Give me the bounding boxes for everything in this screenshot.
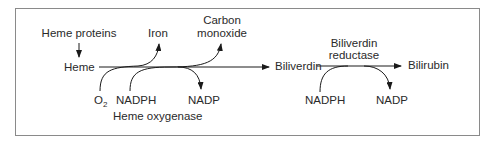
label-o2: O2 bbox=[94, 94, 107, 111]
label-nadph-2: NADPH bbox=[305, 94, 345, 107]
arrow-to-nadp-1 bbox=[178, 67, 201, 89]
arrow-nadph-2 bbox=[320, 66, 348, 92]
node-heme: Heme bbox=[64, 61, 95, 74]
o2-base: O bbox=[94, 94, 103, 106]
node-carbon-monoxide-line1: Carbon bbox=[203, 14, 241, 27]
label-nadp-2: NADP bbox=[376, 94, 408, 107]
node-bilirubin: Bilirubin bbox=[408, 59, 449, 72]
o2-subscript: 2 bbox=[103, 100, 107, 109]
label-heme-oxygenase: Heme oxygenase bbox=[113, 110, 203, 123]
node-carbon-monoxide-line2: monoxide bbox=[197, 27, 247, 40]
node-iron: Iron bbox=[148, 27, 168, 40]
node-biliverdin: Biliverdin bbox=[275, 60, 322, 73]
arrow-to-nadp-2 bbox=[364, 66, 390, 89]
label-nadp-1: NADP bbox=[188, 94, 220, 107]
node-heme-proteins: Heme proteins bbox=[42, 27, 117, 40]
label-nadph-1: NADPH bbox=[116, 94, 156, 107]
label-biliverdin-reductase-line2: reductase bbox=[329, 49, 380, 62]
